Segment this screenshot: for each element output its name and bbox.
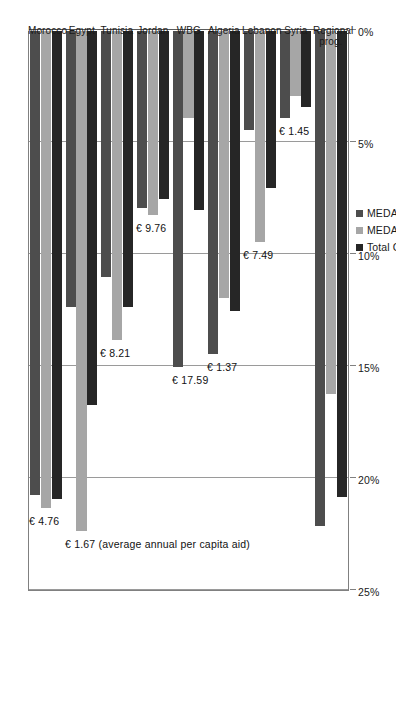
axis-label-5%: 5%: [358, 138, 373, 150]
legend-label-2: MEDA II = € 5.4 billion: [367, 207, 396, 219]
bar-tunisia-meda1: [112, 31, 122, 340]
value-label-syria: € 1.45: [279, 125, 309, 137]
category-label-algeria: Algeria: [206, 25, 242, 36]
value-label-wbg: € 17.59: [172, 374, 208, 386]
axis-tick-10%: [350, 253, 356, 254]
legend-swatch-icon-0: [356, 244, 363, 251]
bar-algeria-total: [230, 31, 240, 311]
category-label-regional-prog: Regionalprog.: [313, 25, 349, 47]
bar-egypt-total: [87, 31, 97, 405]
rotated-figure-wrapper: € 4.76€ 1.67 (average annual per capita …: [0, 0, 396, 701]
axis-label-25%: 25%: [358, 586, 379, 598]
bar-algeria-meda1: [219, 31, 229, 298]
category-label-egypt: Egypt: [64, 25, 100, 36]
bar-lebanon-total: [266, 31, 276, 188]
category-label-syria: Syria: [278, 25, 314, 36]
category-label-lebanon: Lebanon: [242, 25, 278, 36]
bar-egypt-meda1: [76, 31, 86, 531]
category-label-wbg: WBG: [171, 25, 207, 36]
axis-tick-15%: [350, 365, 356, 366]
axis-tick-25%: [350, 589, 356, 590]
value-label-jordan: € 9.76: [136, 222, 166, 234]
value-label-lebanon: € 7.49: [243, 249, 273, 261]
bar-chart-figure: € 4.76€ 1.67 (average annual per capita …: [0, 0, 396, 701]
bar-egypt-meda2: [66, 31, 76, 307]
value-label-tunisia: € 8.21: [100, 347, 130, 359]
bar-tunisia-meda2: [101, 31, 111, 277]
bar-jordan-meda2: [137, 31, 147, 208]
bar-wbg-meda1: [183, 31, 193, 118]
legend-item-2: MEDA II = € 5.4 billion: [356, 207, 396, 219]
legend-swatch-icon-2: [356, 210, 363, 217]
legend-item-1: MEDA I = € 2.8 billion: [356, 224, 396, 236]
bar-regional-prog-meda1: [326, 31, 336, 394]
bar-syria-meda1: [290, 31, 300, 96]
legend-item-0: Total Country shares of: [356, 241, 396, 253]
bar-jordan-meda1: [148, 31, 158, 215]
bar-syria-meda2: [280, 31, 290, 118]
bar-syria-total: [301, 31, 311, 107]
bar-morocco-meda2: [30, 31, 40, 495]
bar-regional-prog-total: [337, 31, 347, 497]
axis-label-15%: 15%: [358, 362, 379, 374]
bar-lebanon-meda1: [255, 31, 265, 242]
axis-label-0%: 0%: [358, 26, 373, 38]
bar-lebanon-meda2: [244, 31, 254, 130]
category-label-morocco: Morocco: [28, 25, 64, 36]
bar-regional-prog-meda2: [315, 31, 325, 526]
axis-label-20%: 20%: [358, 474, 379, 486]
legend-label-1: MEDA I = € 2.8 billion: [367, 224, 396, 236]
gridline-25%: [29, 589, 348, 590]
bar-wbg-meda2: [173, 31, 183, 367]
value-label-morocco: € 4.76: [29, 515, 59, 527]
bar-morocco-meda1: [41, 31, 51, 508]
bar-morocco-total: [52, 31, 62, 499]
axis-tick-20%: [350, 477, 356, 478]
bar-wbg-total: [194, 31, 204, 210]
bar-tunisia-total: [123, 31, 133, 307]
axis-tick-5%: [350, 141, 356, 142]
value-label-egypt: € 1.67 (average annual per capita aid): [65, 538, 250, 550]
bar-algeria-meda2: [208, 31, 218, 354]
legend-label-0: Total Country shares of: [367, 241, 396, 253]
category-label-tunisia: Tunisia: [99, 25, 135, 36]
value-label-algeria: € 1.37: [207, 361, 237, 373]
category-label-jordan: Jordan: [135, 25, 171, 36]
bar-jordan-total: [159, 31, 169, 199]
legend-swatch-icon-1: [356, 227, 363, 234]
